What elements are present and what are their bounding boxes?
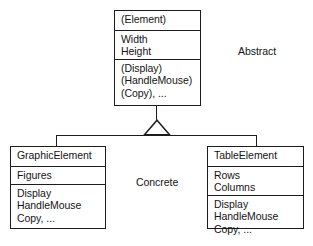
class-operations-compartment: Display HandleMouse Copy, ... (208, 195, 303, 238)
generalization-drop-graphic-element (56, 135, 57, 147)
uml-class-diagram: (Element) Width Height (Display) (Handle… (0, 0, 313, 246)
operation-item: (Copy), ... (121, 87, 200, 99)
class-attributes-compartment: Figures (11, 166, 105, 184)
attribute-item: Width (121, 33, 200, 45)
class-operations-compartment: (Display) (HandleMouse) (Copy), ... (115, 59, 200, 102)
operation-item: HandleMouse (17, 199, 105, 211)
class-box-element[interactable]: (Element) Width Height (Display) (Handle… (114, 10, 201, 106)
operation-item: (Display) (121, 62, 200, 74)
generalization-bus-line (56, 135, 257, 136)
class-name-element: (Element) (121, 13, 200, 25)
operation-item: HandleMouse (214, 210, 303, 222)
class-attributes-compartment: Rows Columns (208, 166, 303, 195)
class-box-table-element[interactable]: TableElement Rows Columns Display Handle… (207, 146, 304, 229)
class-attributes-compartment: Width Height (115, 30, 200, 59)
class-box-graphic-element[interactable]: GraphicElement Figures Display HandleMou… (10, 146, 106, 229)
attribute-item: Height (121, 45, 200, 57)
generalization-triangle-icon (143, 119, 171, 136)
operation-item: Display (17, 187, 105, 199)
attribute-item: Columns (214, 181, 303, 193)
operation-item: Copy, ... (214, 223, 303, 235)
operation-item: Display (214, 198, 303, 210)
operation-item: Copy, ... (17, 212, 105, 224)
class-operations-compartment: Display HandleMouse Copy, ... (11, 184, 105, 227)
class-name-compartment: TableElement (208, 147, 303, 166)
annotation-concrete: Concrete (136, 176, 178, 188)
class-name-table-element: TableElement (214, 149, 303, 161)
attribute-item: Rows (214, 169, 303, 181)
operation-item: (HandleMouse) (121, 74, 200, 86)
annotation-abstract: Abstract (238, 45, 276, 57)
class-name-graphic-element: GraphicElement (17, 149, 105, 161)
class-name-compartment: GraphicElement (11, 147, 105, 166)
class-name-compartment: (Element) (115, 11, 200, 30)
attribute-item: Figures (17, 169, 105, 181)
generalization-drop-table-element (256, 135, 257, 147)
